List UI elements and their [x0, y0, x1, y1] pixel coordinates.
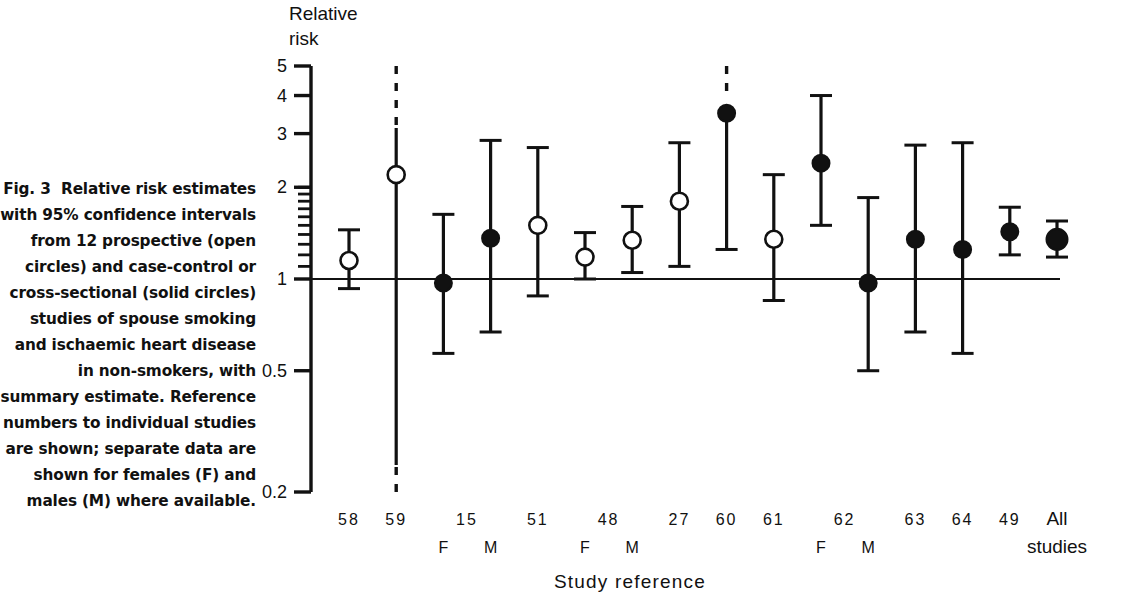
solid-circle-marker-summary	[1047, 229, 1068, 250]
y-axis-tick-label: 4	[277, 86, 287, 106]
solid-circle-marker	[435, 275, 452, 292]
study-estimate	[432, 214, 454, 353]
data-points	[338, 66, 1068, 500]
open-circle-marker	[341, 252, 358, 269]
x-axis-label-sex: M	[484, 539, 497, 556]
y-axis-tick-label: 0.2	[262, 482, 287, 502]
x-axis-label-study: 51	[527, 511, 549, 528]
forest-plot: 543210.50.2 585915FM5148FM27606162FM6364…	[0, 0, 1143, 604]
x-axis-label-sex: M	[862, 539, 875, 556]
x-axis-title: Study reference	[554, 571, 706, 592]
solid-circle-marker	[907, 231, 924, 248]
y-axis: 543210.50.2	[262, 56, 311, 502]
x-axis-label-study: 58	[338, 511, 360, 528]
x-axis-label-study: 59	[385, 511, 407, 528]
study-estimate	[1046, 221, 1068, 257]
x-axis-label-sex: F	[816, 539, 826, 556]
x-axis-label-sex: M	[626, 539, 639, 556]
solid-circle-marker	[482, 230, 499, 247]
open-circle-marker	[529, 217, 546, 234]
solid-circle-marker	[1001, 223, 1018, 240]
study-estimate	[810, 96, 832, 226]
open-circle-marker	[624, 232, 641, 249]
solid-circle-marker	[718, 105, 735, 122]
x-axis-label-sex: F	[439, 539, 449, 556]
x-axis-label-all-studies-line2: studies	[1027, 536, 1087, 557]
open-circle-marker	[765, 231, 782, 248]
study-estimate	[716, 66, 738, 249]
x-axis-label-study: 60	[716, 511, 738, 528]
x-axis-label-study: 61	[763, 511, 785, 528]
y-axis-tick-label: 2	[277, 177, 287, 197]
x-axis-label-study: 64	[952, 511, 974, 528]
x-axis-label-study: 15	[456, 511, 478, 528]
study-estimate	[952, 143, 974, 354]
y-axis-tick-label: 5	[277, 56, 287, 76]
y-axis-tick-label: 0.5	[262, 361, 287, 381]
study-estimate	[480, 140, 502, 332]
open-circle-marker	[671, 193, 688, 210]
study-estimate	[668, 143, 690, 267]
y-axis-title-line1: Relative	[289, 3, 358, 24]
x-axis-label-study: 63	[905, 511, 927, 528]
solid-circle-marker	[860, 275, 877, 292]
y-axis-tick-label: 1	[277, 269, 287, 289]
solid-circle-marker	[813, 155, 830, 172]
y-axis-tick-label: 3	[277, 124, 287, 144]
study-estimate	[527, 148, 549, 296]
open-circle-marker	[388, 166, 405, 183]
x-axis-labels: 585915FM5148FM27606162FM636449Allstudies	[338, 508, 1087, 557]
study-estimate	[857, 198, 879, 371]
x-axis-label-all-studies: All	[1046, 508, 1067, 529]
study-estimate	[621, 206, 643, 272]
x-axis-label-study: 49	[999, 511, 1021, 528]
x-axis-label-sex: F	[580, 539, 590, 556]
y-axis-title-line2: risk	[289, 28, 319, 49]
open-circle-marker	[577, 249, 594, 266]
x-axis-label-study: 48	[598, 511, 620, 528]
study-estimate	[904, 145, 926, 332]
figure-root: Fig. 3 Relative risk estimates with 95% …	[0, 0, 1143, 604]
study-estimate	[574, 233, 596, 279]
x-axis-label-study: 62	[834, 511, 856, 528]
study-estimate	[388, 66, 405, 500]
x-axis-label-study: 27	[669, 511, 691, 528]
solid-circle-marker	[954, 241, 971, 258]
study-estimate	[763, 175, 785, 301]
study-estimate	[999, 207, 1021, 255]
